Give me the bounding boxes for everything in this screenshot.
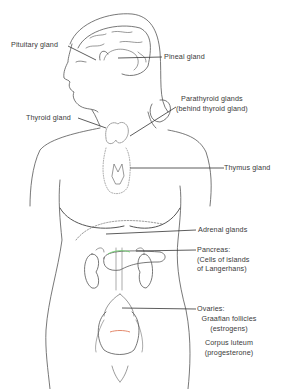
label-corpus-line1: Corpus luteum <box>196 338 262 348</box>
label-ovaries: Ovaries: <box>197 304 225 314</box>
pointer-adrenal <box>106 230 196 234</box>
label-parathyroid: Parathyroid glands (behind thyroid gland… <box>176 94 248 113</box>
uterus <box>98 312 139 355</box>
thymus <box>112 164 124 184</box>
torso-right <box>177 186 190 389</box>
fallopian-right <box>120 294 134 316</box>
kidney-right <box>138 254 153 288</box>
label-thymus: Thymus gland <box>224 163 270 173</box>
label-pancreas-line2: (Cells of islands <box>197 255 249 265</box>
label-corpus-luteum: Corpus luteum (progesterone) <box>196 338 262 357</box>
brain-inner <box>104 49 138 70</box>
vaginal-canal <box>112 366 128 382</box>
label-adrenal: Adrenal glands <box>198 225 247 235</box>
thyroid <box>106 122 129 143</box>
pointer-pancreas <box>136 250 196 251</box>
pelvis-right <box>136 320 143 352</box>
face-profile <box>64 44 98 112</box>
endocrine-diagram: Pituitary gland Pineal gland Parathyroid… <box>0 0 283 389</box>
pointer-thyroid <box>78 118 106 128</box>
torso-left <box>46 180 62 389</box>
pointer-pineal <box>118 57 162 58</box>
label-thyroid: Thyroid gland <box>26 113 71 123</box>
head-outline <box>70 14 168 112</box>
label-parathyroid-line1: Parathyroid glands <box>176 94 248 104</box>
pancreas-accent <box>108 251 130 254</box>
brain-outer <box>78 26 150 76</box>
ear <box>100 51 108 60</box>
pancreas <box>104 251 165 270</box>
label-graafian-line1: Graafian follicles <box>196 314 262 324</box>
fallopian-left <box>104 294 120 316</box>
label-pancreas-line1: Pancreas: <box>197 245 249 255</box>
label-graafian: Graafian follicles (estrogens) <box>196 314 262 333</box>
breast-right <box>130 208 180 228</box>
label-pineal: Pineal gland <box>164 52 205 62</box>
pointer-pituitary <box>68 46 96 60</box>
pointer-parathyroid <box>130 107 176 136</box>
label-pituitary: Pituitary gland <box>11 40 58 50</box>
label-parathyroid-line2: (behind thyroid gland) <box>176 104 248 114</box>
thymus-outline <box>103 148 130 194</box>
diaphragm <box>76 221 162 240</box>
breast-left <box>60 208 124 228</box>
label-corpus-line2: (progesterone) <box>196 348 262 358</box>
kidney-left <box>85 254 99 288</box>
pelvis-left <box>95 320 104 352</box>
left-shoulder <box>30 128 100 206</box>
label-pancreas-line3: of Langerhans) <box>197 264 249 274</box>
ovary-accent <box>110 331 130 333</box>
aorta <box>116 248 122 290</box>
adrenal-left <box>96 248 104 252</box>
label-graafian-line2: (estrogens) <box>196 324 262 334</box>
label-pancreas: Pancreas: (Cells of islands of Langerhan… <box>197 245 249 274</box>
pointer-ovaries <box>122 308 196 309</box>
eye <box>76 61 86 62</box>
